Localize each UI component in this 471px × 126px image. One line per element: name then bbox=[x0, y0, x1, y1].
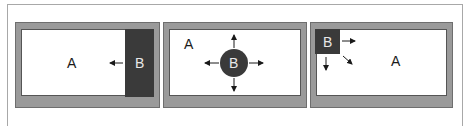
panel-3-arrow-diagonal-icon bbox=[343, 56, 352, 64]
arrows-layer bbox=[0, 0, 471, 126]
